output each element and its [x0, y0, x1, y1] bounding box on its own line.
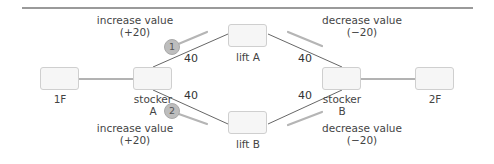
node-2f [415, 67, 454, 90]
edge-weight-lift-a-stocker-b: 40 [298, 52, 312, 65]
annotation-bottom-right-line2: (−20) [322, 134, 402, 146]
node-stocker-b-label-line1: stocker [323, 93, 361, 105]
edge-weight-stocker-a-lift-a: 40 [184, 52, 198, 65]
node-1f [40, 67, 79, 90]
annotation-top-right-line2: (−20) [322, 26, 402, 38]
node-lift-b-label: lift B [236, 138, 260, 150]
node-1f-label: 1F [54, 93, 67, 105]
annotation-bottom-right: decrease value (−20) [322, 122, 402, 146]
node-stocker-b [322, 67, 361, 90]
flow-arrow-top-right [288, 32, 322, 46]
flow-arrow-bottom-right [288, 112, 322, 125]
node-stocker-a [133, 67, 172, 90]
step-badge-1: 1 [164, 39, 180, 55]
flow-arrow-top-left [176, 32, 207, 45]
edge-weight-lift-b-stocker-b: 40 [298, 89, 312, 102]
edge-weight-stocker-a-lift-b: 40 [184, 89, 198, 102]
step-badge-2: 2 [164, 103, 180, 119]
flow-arrow-bottom-left [176, 113, 207, 124]
node-stocker-b-label: stocker B [323, 93, 361, 117]
annotation-bottom-right-line1: decrease value [322, 122, 402, 134]
node-stocker-b-label-line2: B [323, 105, 361, 117]
annotation-top-left-line2: (+20) [97, 26, 173, 38]
annotation-top-right: decrease value (−20) [322, 14, 402, 38]
annotation-top-left-line1: increase value [97, 14, 173, 26]
annotation-top-right-line1: decrease value [322, 14, 402, 26]
node-lift-a [228, 24, 267, 47]
annotation-bottom-left: increase value (+20) [97, 122, 173, 146]
node-lift-a-label: lift A [236, 51, 260, 63]
node-2f-label: 2F [429, 93, 442, 105]
node-stocker-a-label-line1: stocker [134, 93, 172, 105]
annotation-top-left: increase value (+20) [97, 14, 173, 38]
node-lift-b [228, 111, 267, 134]
annotation-bottom-left-line2: (+20) [97, 134, 173, 146]
annotation-bottom-left-line1: increase value [97, 122, 173, 134]
